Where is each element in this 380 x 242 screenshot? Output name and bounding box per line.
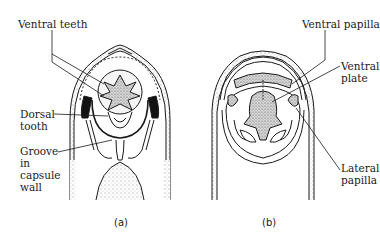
label-dorsal-tooth: Dorsal tooth	[20, 108, 55, 132]
caption-panel-a: (a)	[114, 217, 128, 228]
label-lateral-papilla: Lateral papilla	[341, 162, 379, 186]
panel-b-drawing	[212, 51, 314, 200]
caption-panel-b: (b)	[262, 217, 276, 228]
label-ventral-plate: Ventral plate	[341, 60, 379, 84]
label-ventral-papilla: Ventral papilla	[302, 18, 380, 30]
label-ventral-teeth: Ventral teeth	[18, 18, 87, 30]
panel-a-drawing	[70, 45, 170, 200]
label-groove-in-capsule-wall: Groove in capsule wall	[20, 145, 61, 193]
